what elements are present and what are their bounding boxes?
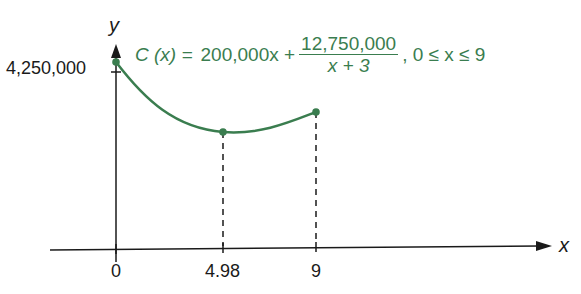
x-axis xyxy=(50,246,540,250)
formula-fraction: 12,750,000 x + 3 xyxy=(299,33,398,76)
x-axis-arrow-icon xyxy=(536,241,552,251)
cost-formula: C (x) = 200,000x + 12,750,000 x + 3 , 0 … xyxy=(135,33,485,76)
formula-numerator: 12,750,000 xyxy=(299,33,398,55)
formula-lhs: C (x) = xyxy=(135,44,193,66)
formula-denominator: x + 3 xyxy=(328,55,370,76)
formula-domain: , 0 ≤ x ≤ 9 xyxy=(402,44,485,66)
y-axis-label: y xyxy=(109,14,119,37)
point-start xyxy=(112,58,120,66)
y-tick-label-4250000: 4,250,000 xyxy=(6,58,86,79)
x-tick-label-498: 4.98 xyxy=(205,261,240,282)
y-axis-arrow-icon xyxy=(111,44,121,58)
x-tick-label-9: 9 xyxy=(311,261,321,282)
point-minimum xyxy=(219,128,227,136)
point-end xyxy=(312,108,320,116)
x-axis-label: x xyxy=(559,234,569,257)
formula-term1: 200,000x + xyxy=(201,44,296,66)
x-tick-label-0: 0 xyxy=(111,261,121,282)
